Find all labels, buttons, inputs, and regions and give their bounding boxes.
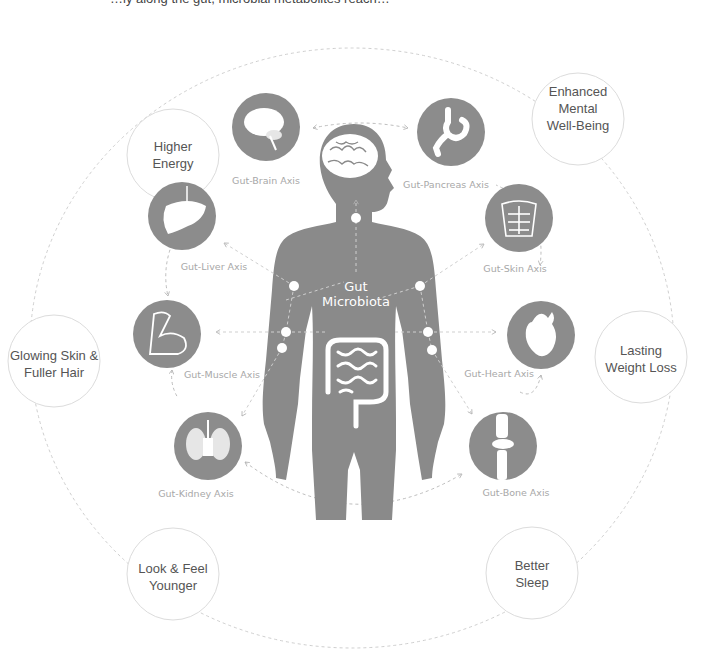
- benefit-mental-wellbeing: Enhanced Mental Well-Being: [532, 73, 624, 165]
- gut-axis-diagram: Higher Energy Enhanced Mental Well-Being…: [0, 0, 702, 649]
- benefit-glowing-skin: Glowing Skin & Fuller Hair: [8, 315, 100, 407]
- svg-text:Well-Being: Well-Being: [547, 118, 610, 133]
- benefit-better-sleep: Better Sleep: [486, 527, 578, 619]
- axis-brain: Gut-Brain Axis: [232, 93, 300, 186]
- axis-muscle: Gut-Muscle Axis: [133, 300, 260, 380]
- svg-text:Energy: Energy: [152, 156, 194, 171]
- svg-text:Gut-Bone Axis: Gut-Bone Axis: [482, 487, 549, 498]
- svg-text:Look & Feel: Look & Feel: [138, 561, 207, 576]
- svg-text:Gut-Muscle Axis: Gut-Muscle Axis: [184, 369, 260, 380]
- svg-text:Weight Loss: Weight Loss: [605, 360, 677, 375]
- center-label-gut: Gut: [344, 279, 367, 294]
- svg-text:Mental: Mental: [558, 101, 597, 116]
- axis-kidney: Gut-Kidney Axis: [158, 412, 242, 499]
- svg-text:Gut-Heart Axis: Gut-Heart Axis: [464, 368, 534, 379]
- svg-text:Glowing Skin &: Glowing Skin &: [10, 348, 98, 363]
- axis-pancreas: Gut-Pancreas Axis: [403, 98, 489, 190]
- svg-text:Gut-Skin Axis: Gut-Skin Axis: [483, 263, 547, 274]
- axis-liver: Gut-Liver Axis: [148, 182, 247, 272]
- svg-text:Gut-Pancreas Axis: Gut-Pancreas Axis: [403, 179, 489, 190]
- benefit-look-younger: Look & Feel Younger: [127, 528, 219, 620]
- axis-bone: Gut-Bone Axis: [469, 412, 550, 498]
- center-label-microbiota: Microbiota: [322, 294, 390, 309]
- axis-skin: Gut-Skin Axis: [483, 184, 553, 274]
- svg-text:Higher: Higher: [154, 139, 193, 154]
- axis-heart: Gut-Heart Axis: [464, 301, 575, 379]
- svg-text:Gut-Kidney Axis: Gut-Kidney Axis: [158, 488, 234, 499]
- svg-text:Fuller Hair: Fuller Hair: [24, 365, 85, 380]
- svg-text:Gut-Brain Axis: Gut-Brain Axis: [232, 175, 300, 186]
- svg-text:Enhanced: Enhanced: [549, 84, 608, 99]
- svg-text:Better: Better: [515, 558, 550, 573]
- svg-text:Sleep: Sleep: [515, 575, 548, 590]
- benefit-weight-loss: Lasting Weight Loss: [595, 311, 687, 403]
- brain-in-head-icon: [322, 134, 378, 178]
- svg-text:Younger: Younger: [149, 578, 198, 593]
- svg-text:Lasting: Lasting: [620, 343, 662, 358]
- svg-text:Gut-Liver Axis: Gut-Liver Axis: [181, 261, 248, 272]
